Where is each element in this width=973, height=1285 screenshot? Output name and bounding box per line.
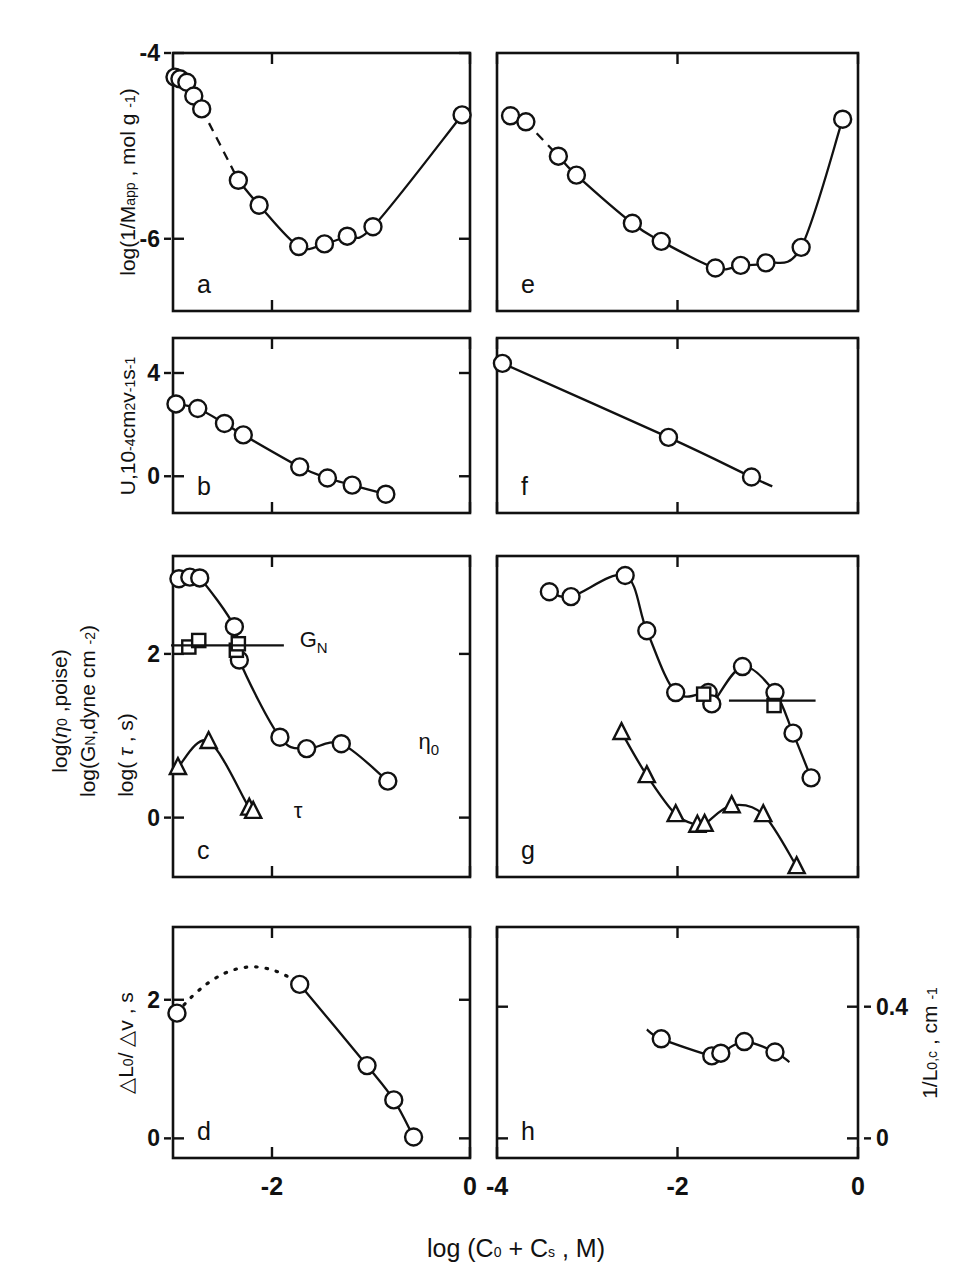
panel-letter-f: f: [521, 472, 528, 500]
series-g-eta0-marker-1: [563, 588, 580, 605]
ylabel-panel-c-tau: log( τ , s): [114, 713, 138, 797]
series-e-1/M_app-marker-3: [568, 167, 585, 184]
series-e-1/M_app-marker-10: [834, 111, 851, 128]
xtick-label-left-0: 0: [463, 1172, 477, 1201]
ytick-label-h-0.4: 0.4: [876, 994, 908, 1020]
series-g-eta0-marker-7: [734, 658, 751, 675]
xtick-label-left--2: -2: [261, 1172, 283, 1201]
ytick-label-c-0: 0: [147, 805, 160, 831]
series-d-dL0/dv-marker-4: [405, 1129, 422, 1146]
ytick-label-a--6: -6: [140, 226, 160, 252]
series-g-GN-marker-0: [697, 688, 710, 701]
series-f-U-line: [502, 363, 772, 486]
series-g-eta0-marker-0: [541, 583, 558, 600]
series-e-1/M_app-marker-1: [517, 113, 534, 130]
ylabel-panel-a: log(1/Mapp , mol g -1): [116, 88, 140, 276]
series-g-tau-marker-6: [755, 805, 771, 821]
series-g-eta0-marker-2: [617, 567, 634, 584]
series-a-1/M_app-line-dashed: [202, 109, 239, 180]
series-c-eta0-marker-7: [333, 735, 350, 752]
ytick-label-h-0: 0: [876, 1125, 889, 1151]
figure-canvas: -4-6a40b20cGNη0τ20defg0.40h: [0, 0, 973, 1285]
series-a-1/M_app-marker-9: [339, 228, 356, 245]
eta0-annotation: η0: [419, 729, 440, 758]
panel-frame-c: [173, 556, 470, 877]
series-c-eta0-line: [179, 574, 388, 781]
series-b-U-marker-4: [291, 458, 308, 475]
series-f-U-marker-0: [494, 355, 511, 372]
ylabel-panel-d: △L0/ △v , s: [114, 992, 138, 1094]
series-d-dL0/dv-line-seg: [300, 984, 414, 1137]
panel-letter-g: g: [521, 836, 535, 864]
panel-c: 20cGNη0τ: [147, 556, 470, 877]
panel-frame-e: [497, 53, 858, 311]
series-a-1/M_app-marker-5: [230, 172, 247, 189]
series-c-eta0-marker-8: [379, 773, 396, 790]
series-c-tau-line: [178, 740, 254, 814]
series-e-1/M_app-marker-9: [793, 239, 810, 256]
ytick-label-d-2: 2: [147, 987, 160, 1013]
gn-annotation: GN: [300, 627, 328, 656]
ytick-label-b-0: 0: [147, 463, 160, 489]
series-b-U-marker-1: [189, 400, 206, 417]
series-c-eta0-marker-2: [191, 569, 208, 586]
series-a-1/M_app-marker-11: [454, 106, 471, 123]
series-d-dL0/dv-marker-1: [291, 976, 308, 993]
xtick-label-right-0: 0: [851, 1172, 865, 1201]
series-f-U-marker-2: [743, 468, 760, 485]
ytick-label-b-4: 4: [147, 360, 160, 386]
series-f-U-marker-1: [660, 429, 677, 446]
series-g-eta0-marker-10: [803, 769, 820, 786]
panel-g: g: [497, 556, 858, 877]
x-axis-label: log (C0 + Cs , M): [427, 1234, 605, 1263]
series-d-dL0/dv-line-dotted: [177, 967, 300, 1013]
series-b-U-marker-2: [216, 415, 233, 432]
series-h-1/L0c-marker-0: [653, 1030, 670, 1047]
series-e-1/M_app-marker-7: [732, 257, 749, 274]
series-b-U-marker-5: [319, 470, 336, 487]
panel-letter-c: c: [197, 836, 210, 864]
panel-frame-g: [497, 556, 858, 877]
panel-letter-h: h: [521, 1117, 535, 1145]
series-d-dL0/dv-marker-0: [168, 1005, 185, 1022]
ylabel-panel-h: 1/L0,c , cm -1: [918, 987, 942, 1099]
series-a-1/M_app-marker-10: [364, 218, 381, 235]
series-d-dL0/dv-marker-3: [385, 1091, 402, 1108]
series-b-U-marker-3: [235, 426, 252, 443]
series-b-U-marker-7: [377, 486, 394, 503]
panel-b: 40b: [147, 338, 470, 513]
series-g-eta0-line: [549, 575, 811, 778]
ylabel-panel-c-gn: log(GN,dyne cm -2): [76, 625, 100, 797]
series-h-1/L0c-marker-4: [766, 1044, 783, 1061]
series-c-GN-marker-3: [232, 637, 245, 650]
series-c-eta0-marker-6: [298, 740, 315, 757]
panel-frame-a: [173, 53, 470, 311]
series-d-dL0/dv-marker-2: [359, 1057, 376, 1074]
series-b-U-marker-0: [167, 395, 184, 412]
ytick-label-a--4: -4: [140, 40, 161, 66]
panel-a: -4-6a: [140, 40, 471, 311]
xtick-label-right--2: -2: [666, 1172, 688, 1201]
ytick-label-c-2: 2: [147, 641, 160, 667]
series-a-1/M_app-marker-4: [193, 100, 210, 117]
series-g-eta0-marker-4: [667, 684, 684, 701]
panel-frame-h: [497, 927, 858, 1158]
panel-letter-d: d: [197, 1117, 211, 1145]
series-a-1/M_app-marker-8: [316, 235, 333, 252]
series-g-eta0-marker-9: [785, 725, 802, 742]
tau-annotation: τ: [294, 798, 303, 823]
series-c-eta0-marker-5: [271, 729, 288, 746]
series-g-tau-marker-0: [613, 723, 629, 739]
panel-h: 0.40h: [497, 927, 908, 1158]
panel-letter-e: e: [521, 270, 535, 298]
figure-root: -4-6a40b20cGNη0τ20defg0.40h log(1/Mapp ,…: [0, 0, 973, 1285]
series-b-U-marker-6: [344, 477, 361, 494]
panel-letter-a: a: [197, 270, 211, 298]
series-a-1/M_app-marker-7: [290, 238, 307, 255]
ylabel-panel-b: U,10-4cm2v-1s-1: [116, 356, 140, 495]
panel-frame-f: [497, 338, 858, 513]
series-g-tau-line: [622, 732, 797, 866]
series-e-1/M_app-marker-6: [707, 260, 724, 277]
series-e-1/M_app-marker-2: [550, 148, 567, 165]
series-a-1/M_app-marker-6: [251, 197, 268, 214]
